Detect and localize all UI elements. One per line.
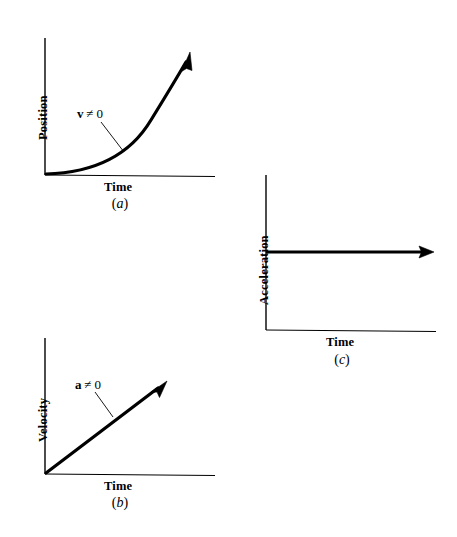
chart-b-y-axis-label: Velocity [36,398,51,442]
chart-b-curve-arrowhead [151,381,168,398]
chart-panel-a: Position Time v ≠ 0 (a) [0,0,240,240]
chart-b-caption-letter: b [117,495,124,510]
chart-panel-b: Velocity Time a ≠ 0 (b) [0,330,240,537]
chart-a-annotation-relation: ≠ 0 [86,106,103,121]
chart-b-caption: (b) [100,495,140,511]
chart-b-y-axis-label-text: Velocity [36,398,50,442]
chart-a-y-axis-label: Position [36,95,51,140]
chart-a-annotation: v ≠ 0 [77,106,103,122]
chart-a-x-axis-label: Time [104,180,132,195]
chart-a-curve-arrowhead [182,52,193,72]
chart-panel-c: Acceleration Time (c) [240,160,457,375]
chart-a-x-axis [45,175,215,177]
chart-c-y-axis-label: Acceleration [257,235,272,305]
chart-c-x-axis-label-text: Time [326,335,354,349]
figure-canvas: Position Time v ≠ 0 (a) Velocity [0,0,457,537]
chart-b-annotation: a ≠ 0 [75,377,101,393]
chart-b-curve [46,388,158,473]
chart-a-caption-letter: a [117,196,124,211]
chart-c-y-axis-label-text: Acceleration [257,235,271,305]
chart-b-x-axis [45,474,215,476]
chart-a-annotation-leader [101,122,124,152]
chart-c-x-axis [266,330,436,332]
chart-b-annotation-relation: ≠ 0 [84,377,101,392]
chart-c-curve-arrowhead [419,246,434,258]
chart-c-caption: (c) [322,352,362,368]
chart-b-annotation-leader [95,392,113,417]
chart-a-caption: (a) [100,196,140,212]
chart-b-x-axis-label: Time [104,479,132,494]
chart-a-x-axis-label-text: Time [104,180,132,194]
chart-a-curve [46,62,186,174]
chart-a-y-axis-label-text: Position [36,95,50,140]
chart-b-x-axis-label-text: Time [104,479,132,493]
chart-c-x-axis-label: Time [326,335,354,350]
